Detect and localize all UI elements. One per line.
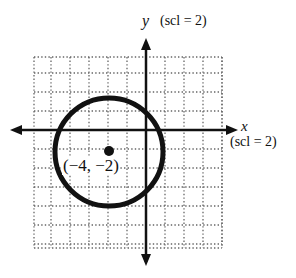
y-axis xyxy=(141,38,151,266)
y-axis-label: y xyxy=(142,12,149,30)
center-point xyxy=(104,146,114,156)
center-point-label: (−4, −2) xyxy=(62,157,120,175)
x-scale-label: (scl = 2) xyxy=(230,134,277,150)
x-axis-left-arrow-icon xyxy=(10,125,22,135)
x-axis-label: x xyxy=(241,118,248,135)
dotted-grid xyxy=(34,57,222,248)
y-axis-down-arrow-icon xyxy=(141,254,151,266)
x-axis xyxy=(10,125,238,135)
y-scale-label: (scl = 2) xyxy=(160,13,207,29)
y-axis-up-arrow-icon xyxy=(141,38,151,50)
